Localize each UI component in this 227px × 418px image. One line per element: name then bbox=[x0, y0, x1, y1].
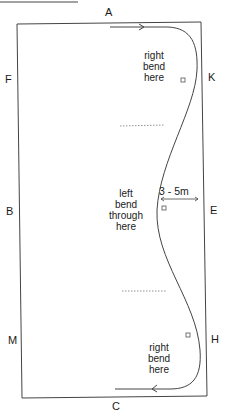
marker-b: B bbox=[6, 206, 13, 217]
bottom-bend-note: right bend here bbox=[141, 342, 177, 375]
marker-k: K bbox=[208, 72, 215, 83]
note-line: bend bbox=[141, 353, 177, 364]
point-marker-middle bbox=[162, 206, 166, 210]
note-line: left bbox=[104, 188, 148, 199]
point-marker-top bbox=[181, 78, 185, 82]
marker-m: M bbox=[8, 335, 17, 346]
distance-label: 3 - 5m bbox=[159, 186, 189, 197]
note-line: here bbox=[136, 72, 172, 83]
marker-c: C bbox=[112, 401, 120, 412]
note-line: here bbox=[141, 364, 177, 375]
point-marker-bottom bbox=[186, 333, 190, 337]
note-line: bend bbox=[136, 61, 172, 72]
note-line: here bbox=[104, 221, 148, 232]
note-line: through bbox=[104, 210, 148, 221]
marker-a: A bbox=[105, 7, 112, 18]
note-line: right bbox=[136, 50, 172, 61]
top-bend-note: right bend here bbox=[136, 50, 172, 83]
note-line: right bbox=[141, 342, 177, 353]
marker-h: H bbox=[211, 334, 219, 345]
marker-e: E bbox=[210, 205, 217, 216]
note-line: bend bbox=[104, 199, 148, 210]
middle-bend-note: left bend through here bbox=[104, 188, 148, 232]
quarter-line-top bbox=[120, 125, 165, 126]
marker-f: F bbox=[5, 74, 12, 85]
